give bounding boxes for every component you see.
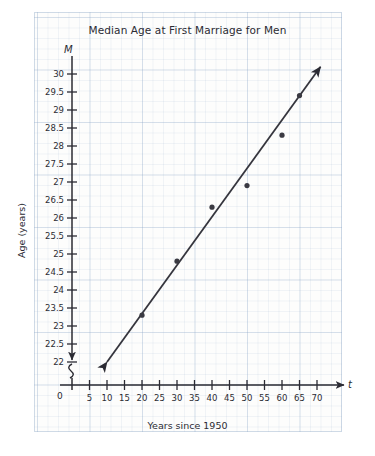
axes-group bbox=[60, 56, 344, 390]
data-point bbox=[139, 313, 144, 318]
trend-line bbox=[107, 67, 321, 362]
y-axis-break-symbol bbox=[69, 364, 74, 378]
data-point bbox=[209, 205, 214, 210]
data-point bbox=[244, 183, 249, 188]
data-point bbox=[297, 93, 302, 98]
plot-area bbox=[0, 0, 375, 456]
data-point bbox=[279, 133, 284, 138]
data-point bbox=[174, 259, 179, 264]
chart-figure: Median Age at First Marriage for Men Yea… bbox=[0, 0, 375, 456]
